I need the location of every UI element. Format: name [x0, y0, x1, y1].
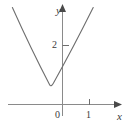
plot-canvas — [0, 0, 130, 133]
x-axis-label: x — [117, 111, 122, 122]
x-axis-arrow-icon — [114, 101, 122, 108]
y-axis-label: y — [56, 5, 61, 16]
origin-label: 0 — [55, 110, 60, 120]
parabola-figure: y x 2 0 1 — [0, 0, 130, 133]
x-tick-label-1: 1 — [86, 110, 91, 120]
y-tick-label-2: 2 — [52, 40, 57, 50]
